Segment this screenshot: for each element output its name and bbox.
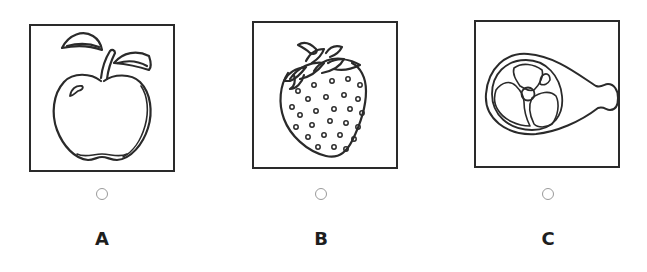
option-c-radio[interactable] <box>542 188 554 200</box>
option-b-card[interactable] <box>252 21 398 169</box>
option-c-label: C <box>528 229 568 249</box>
option-a[interactable]: A <box>29 0 179 272</box>
option-b-label: B <box>301 229 341 249</box>
option-a-radio[interactable] <box>96 188 108 200</box>
strawberry-icon <box>254 23 396 167</box>
option-a-card[interactable] <box>29 24 175 172</box>
ham-icon <box>476 22 618 166</box>
option-a-label: A <box>82 229 122 249</box>
option-b[interactable]: B <box>252 0 402 272</box>
option-c-card[interactable] <box>474 20 620 168</box>
option-c[interactable]: C <box>474 0 624 272</box>
option-b-radio[interactable] <box>315 188 327 200</box>
apple-icon <box>31 26 173 170</box>
